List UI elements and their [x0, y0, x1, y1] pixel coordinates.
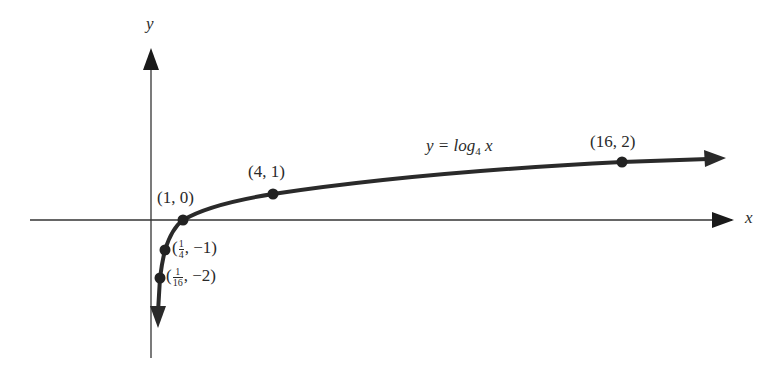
label-1-0: (1, 0): [157, 188, 194, 208]
label-4-1: (4, 1): [248, 162, 285, 182]
label-rest: , −2): [184, 266, 216, 285]
y-axis-arrow-icon: [143, 48, 159, 70]
label-sixteenth-neg2: (116, −2): [166, 266, 216, 288]
func-base: 4: [475, 145, 481, 157]
point-1-0: [178, 215, 189, 226]
point-4-1: [268, 189, 279, 200]
func-prefix: y = log: [426, 136, 475, 155]
point-sixteenth-neg2: [155, 273, 166, 284]
label-16-2: (16, 2): [590, 132, 635, 152]
label-rest: , −1): [185, 238, 217, 257]
fraction-sixteenth: 116: [173, 267, 183, 288]
y-axis-label: y: [146, 14, 154, 34]
fraction-quarter: 14: [179, 239, 184, 260]
log-curve: [158, 159, 708, 312]
paren: (: [166, 266, 172, 285]
curve-right-arrow-icon: [704, 150, 726, 167]
func-var: x: [485, 136, 493, 155]
function-label: y = log4 x: [426, 136, 493, 157]
curve-down-arrow-icon: [150, 306, 166, 328]
paren: (: [172, 238, 178, 257]
x-axis-label: x: [745, 208, 753, 228]
label-quarter-neg1: (14, −1): [172, 238, 217, 260]
point-quarter-neg1: [160, 245, 171, 256]
log-graph: [0, 0, 776, 377]
x-axis-arrow-icon: [712, 212, 734, 228]
point-16-2: [617, 157, 628, 168]
